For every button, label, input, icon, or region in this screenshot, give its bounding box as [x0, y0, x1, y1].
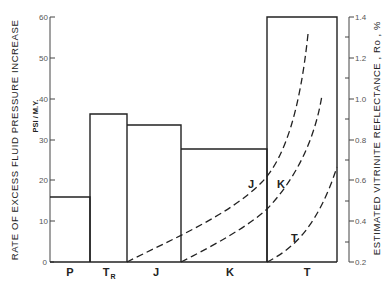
svg-text:0.8: 0.8 [355, 136, 367, 145]
right-minor-ticks [345, 37, 349, 242]
bars [50, 17, 337, 262]
bar-K [181, 149, 267, 262]
curve-label-K: K [277, 178, 285, 190]
left-ticks [50, 17, 55, 262]
svg-text:1.2: 1.2 [355, 54, 367, 63]
svg-text:T: T [103, 266, 110, 278]
svg-text:10: 10 [39, 217, 48, 226]
svg-text:0.2: 0.2 [355, 258, 367, 267]
svg-text:0.6: 0.6 [355, 176, 367, 185]
left-axis-title: RATE OF EXCESS FLUID PRESSURE INCREASE [9, 20, 20, 261]
curve-J [127, 34, 308, 262]
ro-curves [127, 34, 337, 262]
svg-text:1.4: 1.4 [355, 13, 367, 22]
svg-text:R: R [110, 273, 115, 280]
svg-text:0: 0 [43, 258, 48, 267]
svg-text:T: T [304, 266, 311, 278]
svg-text:P: P [66, 266, 73, 278]
svg-text:1.0: 1.0 [355, 95, 367, 104]
category-labels: P T R J K T [66, 266, 310, 280]
bar-P [50, 197, 90, 262]
svg-text:50: 50 [39, 54, 48, 63]
curve-label-J: J [248, 178, 254, 190]
svg-text:K: K [226, 266, 234, 278]
svg-text:J: J [153, 266, 159, 278]
right-major-ticks [349, 17, 354, 262]
bar-J [127, 125, 181, 262]
svg-text:0.4: 0.4 [355, 217, 367, 226]
right-axis-title: ESTIMATED VITRINITE REFLECTANCE , Ro , % [371, 21, 382, 255]
bar-TR [90, 114, 127, 262]
left-tick-labels: 0 10 20 30 40 50 60 [39, 13, 48, 267]
curve-label-T: T [291, 232, 298, 244]
svg-text:20: 20 [39, 176, 48, 185]
svg-text:30: 30 [39, 136, 48, 145]
bar-T [267, 17, 337, 262]
chart: RATE OF EXCESS FLUID PRESSURE INCREASE P… [0, 0, 388, 284]
svg-text:40: 40 [39, 95, 48, 104]
svg-text:60: 60 [39, 13, 48, 22]
right-tick-labels: 0.2 0.4 0.6 0.8 1.0 1.2 1.4 [355, 13, 367, 267]
left-axis-units: PSI / M.Y. [31, 100, 40, 133]
